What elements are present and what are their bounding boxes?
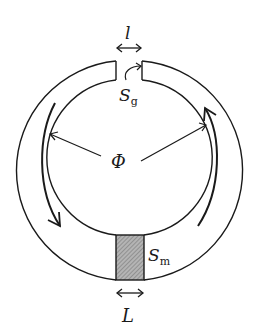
permanent-magnet xyxy=(116,235,144,280)
gap-length-label: l xyxy=(125,23,130,43)
gap-area-pointer-icon xyxy=(125,63,141,80)
magnet-area-label: Sm xyxy=(148,245,171,268)
gap-length-arrow-icon xyxy=(117,44,141,52)
magnet-length-arrow-icon xyxy=(117,289,143,297)
flux-label: Φ xyxy=(111,151,126,172)
gap-area-label: Sg xyxy=(119,85,138,108)
flux-path-left-arrow-icon xyxy=(42,103,60,226)
magnetic-circuit-diagram: l Sg Φ Sm L xyxy=(0,0,253,336)
flux-pointer-right-icon xyxy=(141,123,206,161)
flux-pointer-left-icon xyxy=(50,132,101,156)
flux-path-right-arrow-icon xyxy=(198,108,217,226)
magnet-length-label: L xyxy=(121,305,134,326)
